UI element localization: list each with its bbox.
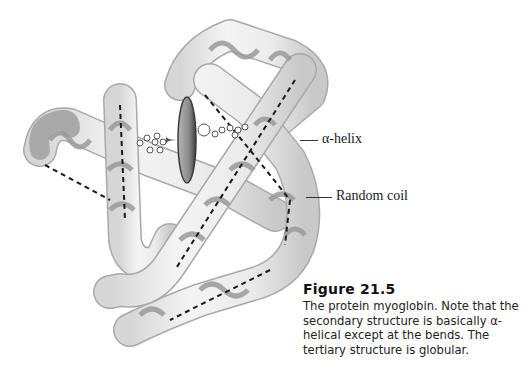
alpha-helix-leader-line — [300, 140, 318, 141]
figure-title: Figure 21.5 — [303, 281, 532, 298]
random-coil-label: Random coil — [336, 188, 408, 204]
random-coil-leader-line — [306, 197, 332, 198]
figure-21-5: α-helix Random coil Figure 21.5 The prot… — [0, 0, 532, 376]
figure-caption: Figure 21.5 The protein myoglobin. Note … — [303, 281, 532, 357]
helix-tubes — [39, 35, 312, 330]
figure-caption-text: The protein myoglobin. Note that the sec… — [303, 299, 532, 357]
alpha-helix-label: α-helix — [322, 131, 362, 147]
